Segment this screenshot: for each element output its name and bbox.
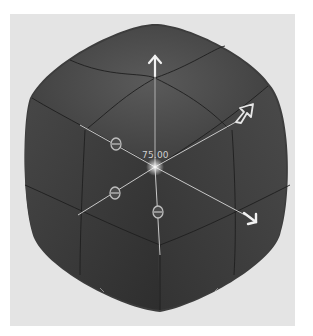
manipulator-value-label: 75.00 bbox=[142, 150, 169, 160]
scale-handle[interactable] bbox=[110, 187, 120, 199]
manipulator-center[interactable] bbox=[146, 158, 164, 176]
viewport[interactable] bbox=[0, 0, 313, 336]
scale-handle[interactable] bbox=[111, 138, 121, 150]
scale-handle[interactable] bbox=[153, 206, 163, 218]
